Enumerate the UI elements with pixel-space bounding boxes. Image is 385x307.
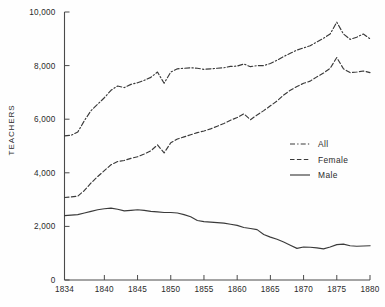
x-tick-label: 1870 (294, 285, 313, 294)
x-tick-label: 1880 (360, 285, 379, 294)
x-tick-label: 1865 (261, 285, 280, 294)
legend-label-male: Male (318, 170, 338, 180)
series-line-male (65, 208, 371, 249)
x-tick-label: 1875 (327, 285, 346, 294)
y-tick-label: 0 (51, 276, 56, 285)
y-axis-title: TEACHERS (7, 105, 16, 156)
y-tick-label: 8,000 (34, 62, 56, 71)
legend-label-female: Female (318, 155, 348, 165)
y-tick-label: 2,000 (34, 222, 56, 231)
x-tick-label: 1850 (161, 285, 180, 294)
x-tick-label: 1855 (194, 285, 213, 294)
y-axis-tick-labels: 02,0004,0006,0008,00010,000 (29, 8, 55, 285)
y-tick-label: 10,000 (29, 8, 55, 17)
data-series-group (65, 22, 371, 249)
line-chart: TEACHERS 02,0004,0006,0008,00010,000 183… (0, 0, 385, 307)
legend-label-all: All (318, 139, 329, 149)
x-tick-label: 1840 (95, 285, 114, 294)
x-tick-label: 1860 (228, 285, 247, 294)
y-tick-label: 6,000 (34, 115, 56, 124)
chart-legend: AllFemaleMale (290, 139, 348, 180)
y-tick-label: 4,000 (34, 169, 56, 178)
x-tick-label: 1845 (128, 285, 147, 294)
chart-container: TEACHERS 02,0004,0006,0008,00010,000 183… (0, 0, 385, 307)
x-tick-label: 1834 (55, 285, 74, 294)
y-axis-title-group: TEACHERS (7, 105, 16, 156)
x-axis-tick-labels: 1834184018451850185518601865187018751880 (55, 285, 380, 294)
series-line-all (65, 22, 371, 136)
